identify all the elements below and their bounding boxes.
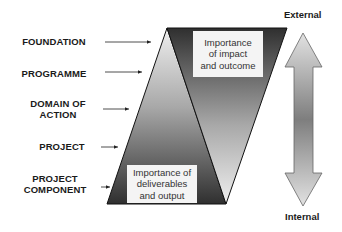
external-internal-double-arrow [285, 33, 322, 206]
internal-label: Internal [285, 211, 319, 222]
level-label-project: PROJECT [30, 141, 94, 152]
external-label: External [284, 9, 322, 20]
box-text-line: Importance [201, 37, 256, 49]
level-label-line: COMPONENT [16, 184, 94, 195]
deliverables-output-box: Importance of deliverables and output [127, 165, 197, 203]
level-label-line: PROJECT [16, 173, 94, 184]
level-label-project-component: PROJECT COMPONENT [16, 173, 94, 195]
level-label-line: DOMAIN OF [22, 98, 94, 109]
box-text-line: and outcome [201, 60, 256, 72]
box-text-line: of impact [201, 48, 256, 60]
impact-outcome-box: Importance of impact and outcome [193, 31, 263, 77]
box-text-line: Importance of [133, 167, 191, 179]
level-label-programme: PROGRAMME [14, 68, 94, 79]
box-text-line: deliverables [133, 178, 191, 190]
level-label-line: ACTION [22, 109, 94, 120]
level-label-foundation: FOUNDATION [14, 36, 94, 47]
box-text-line: and output [133, 190, 191, 202]
level-label-domain-of-action: DOMAIN OF ACTION [22, 98, 94, 120]
